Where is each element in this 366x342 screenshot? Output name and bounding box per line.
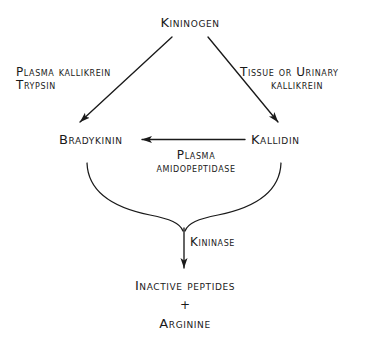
enzyme-plasma-kallikrein: Plasma kallikrein [16, 65, 111, 79]
kininogen-to-kallidin-arrow [208, 37, 278, 122]
pathway-diagram: Kininogen Plasma kallikrein Trypsin Tiss… [0, 0, 366, 342]
enzyme-kallikrein: kallikrein [271, 78, 323, 92]
node-inactive-peptides: Inactive peptides [135, 278, 235, 293]
plus-sign: + [180, 298, 190, 312]
node-arginine: Arginine [159, 316, 210, 331]
enzyme-trypsin: Trypsin [15, 78, 56, 92]
enzyme-amidopeptidase: amidopeptidase [156, 161, 235, 175]
node-kininogen: Kininogen [160, 15, 219, 30]
kininogen-to-bradykinin-arrow [80, 37, 172, 122]
enzyme-plasma: Plasma [177, 148, 215, 162]
pathway-canvas: Kininogen Plasma kallikrein Trypsin Tiss… [0, 0, 366, 342]
enzyme-tissue-or-urinary: Tissue or Urinary [239, 65, 339, 79]
node-kallidin: Kallidin [251, 132, 299, 147]
node-bradykinin: Bradykinin [59, 132, 123, 147]
enzyme-kininase: Kininase [190, 235, 235, 249]
